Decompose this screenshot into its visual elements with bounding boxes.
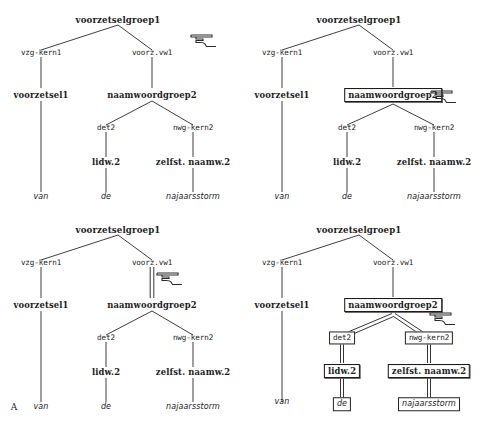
node-zelfst-naamw2[interactable]: zelfst. naamw.2: [156, 158, 230, 166]
leaf-van[interactable]: van: [274, 193, 289, 201]
node-det2[interactable]: det2: [97, 124, 115, 132]
panel-node-selected-tree[interactable]: voorzetselgroep1 vzg-kern1 voorz.vw1 voo…: [241, 0, 483, 211]
leaf-van[interactable]: van: [33, 403, 48, 411]
leaf-de[interactable]: de: [101, 193, 111, 201]
node-voorzetselgroep1[interactable]: voorzetselgroep1: [317, 226, 402, 235]
panel-3-edges: [0, 210, 242, 421]
node-voorzetsel1[interactable]: voorzetsel1: [13, 91, 68, 99]
node-voorz-vw1[interactable]: voorz.vw1: [132, 259, 172, 267]
node-voorzetselgroep1[interactable]: voorzetselgroep1: [76, 16, 161, 25]
node-nwg-kern2[interactable]: nwg-kern2: [173, 124, 213, 132]
node-nwg-kern2[interactable]: nwg-kern2: [414, 124, 454, 132]
leaf-najaarsstorm[interactable]: najaarsstorm: [166, 403, 220, 411]
node-zelfst-naamw2[interactable]: zelfst. naamw.2: [397, 158, 471, 166]
node-lidw2[interactable]: lidw.2: [333, 158, 361, 166]
node-det2-selected[interactable]: det2: [329, 331, 355, 344]
panel-4-edges: [241, 210, 483, 421]
node-naamwoordgroep2[interactable]: naamwoordgroep2: [107, 91, 197, 99]
node-voorz-vw1[interactable]: voorz.vw1: [132, 49, 172, 57]
panel-unselected-tree[interactable]: voorzetselgroep1 vzg-kern1 voorz.vw1 voo…: [0, 0, 242, 211]
panel-1-edges: [0, 0, 242, 211]
node-lidw2[interactable]: lidw.2: [92, 158, 120, 166]
leaf-de[interactable]: de: [101, 403, 111, 411]
node-lidw2[interactable]: lidw.2: [92, 368, 120, 376]
node-voorzetselgroep1[interactable]: voorzetselgroep1: [317, 16, 402, 25]
node-voorzetsel1[interactable]: voorzetsel1: [254, 91, 309, 99]
node-voorz-vw1[interactable]: voorz.vw1: [373, 259, 413, 267]
node-naamwoordgroep2-selected[interactable]: naamwoordgroep2: [344, 298, 442, 312]
node-voorzetsel1[interactable]: voorzetsel1: [13, 301, 68, 309]
leaf-de-selected[interactable]: de: [333, 397, 351, 411]
leaf-de[interactable]: de: [342, 193, 352, 201]
leaf-van[interactable]: van: [274, 398, 289, 406]
node-det2[interactable]: det2: [97, 334, 115, 342]
panel-2-edges: [241, 0, 483, 211]
leaf-najaarsstorm[interactable]: najaarsstorm: [166, 193, 220, 201]
node-voorzetselgroep1[interactable]: voorzetselgroep1: [76, 226, 161, 235]
node-voorz-vw1[interactable]: voorz.vw1: [373, 49, 413, 57]
node-det2[interactable]: det2: [338, 124, 356, 132]
node-vzg-kern1[interactable]: vzg-kern1: [21, 259, 61, 267]
panel-edge-selected-tree[interactable]: voorzetselgroep1 vzg-kern1 voorz.vw1 voo…: [0, 210, 242, 421]
node-vzg-kern1[interactable]: vzg-kern1: [262, 259, 302, 267]
node-vzg-kern1[interactable]: vzg-kern1: [262, 49, 302, 57]
node-naamwoordgroep2-selected[interactable]: naamwoordgroep2: [344, 88, 442, 102]
node-nwg-kern2-selected[interactable]: nwg-kern2: [405, 331, 453, 344]
parse-tree-figure: voorzetselgroep1 vzg-kern1 voorz.vw1 voo…: [0, 0, 483, 421]
node-lidw2-selected[interactable]: lidw.2: [324, 364, 360, 378]
node-nwg-kern2[interactable]: nwg-kern2: [173, 334, 213, 342]
node-naamwoordgroep2[interactable]: naamwoordgroep2: [107, 301, 197, 309]
leaf-najaarsstorm-selected[interactable]: najaarsstorm: [398, 397, 460, 411]
node-voorzetsel1[interactable]: voorzetsel1: [254, 301, 309, 309]
node-vzg-kern1[interactable]: vzg-kern1: [21, 49, 61, 57]
node-zelfst-naamw2-selected[interactable]: zelfst. naamw.2: [388, 364, 470, 378]
figure-caption-letter: A: [11, 402, 18, 412]
leaf-najaarsstorm[interactable]: najaarsstorm: [407, 193, 461, 201]
panel-subtree-selected-tree[interactable]: voorzetselgroep1 vzg-kern1 voorz.vw1 voo…: [241, 210, 483, 421]
node-zelfst-naamw2[interactable]: zelfst. naamw.2: [156, 368, 230, 376]
leaf-van[interactable]: van: [33, 193, 48, 201]
